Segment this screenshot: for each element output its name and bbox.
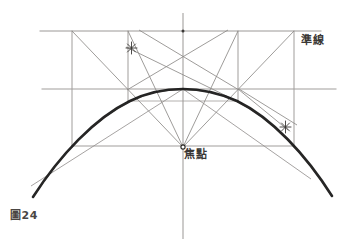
figure-canvas [0, 0, 348, 251]
tangent-left-line [31, 89, 183, 186]
star-left-icon [126, 42, 137, 54]
tangent-right-line [183, 89, 311, 179]
focus-label: 焦點 [184, 149, 207, 160]
bisector-right-c [238, 89, 288, 130]
parabola-figure: 準線 焦點 圖24 [0, 0, 348, 251]
figure-caption: 圖24 [10, 210, 38, 221]
directrix-apex-marker [182, 30, 185, 33]
tangent-lines [31, 89, 311, 186]
star-right-icon [280, 121, 291, 133]
directrix-label: 準線 [301, 35, 324, 46]
